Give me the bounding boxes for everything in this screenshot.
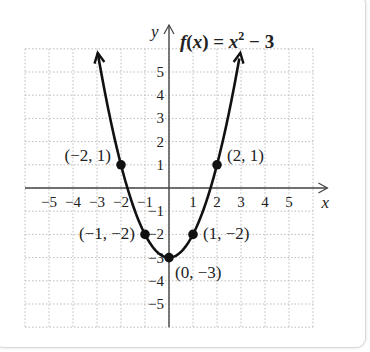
x-tick-label: −5 <box>41 194 57 210</box>
x-tick-label: 4 <box>261 194 269 210</box>
data-point <box>140 230 150 240</box>
y-tick-label: 5 <box>157 64 165 80</box>
x-tick-label: −3 <box>89 194 105 210</box>
point-label: (−1, −2) <box>79 224 135 243</box>
y-tick-label: 4 <box>157 87 165 103</box>
data-point <box>164 253 174 263</box>
x-tick-label: −2 <box>113 194 129 210</box>
data-point <box>188 230 198 240</box>
parabola-chart: xy−5−4−3−2−11234554321−1−2−3−4−5(−2, 1)(… <box>0 0 370 352</box>
y-tick-label: −4 <box>148 273 164 289</box>
y-tick-label: 3 <box>157 110 165 126</box>
chart-title: f(x) = x2 − 3 <box>180 29 274 53</box>
y-tick-label: 1 <box>157 157 165 173</box>
y-tick-label: −2 <box>148 226 164 242</box>
x-tick-label: 5 <box>285 194 293 210</box>
x-tick-label: 3 <box>237 194 245 210</box>
data-point <box>212 160 222 170</box>
x-tick-label: −4 <box>65 194 81 210</box>
x-tick-label: 1 <box>189 194 197 210</box>
y-tick-label: −5 <box>148 296 164 312</box>
point-label: (−2, 1) <box>65 146 111 165</box>
point-label: (1, −2) <box>203 224 249 243</box>
data-point <box>116 160 126 170</box>
y-axis-label: y <box>149 22 159 41</box>
y-tick-label: −1 <box>148 203 164 219</box>
y-tick-label: 2 <box>157 134 165 150</box>
x-tick-label: 2 <box>213 194 221 210</box>
point-label: (0, −3) <box>175 263 221 282</box>
x-axis-label: x <box>320 193 329 212</box>
point-label: (2, 1) <box>227 146 264 165</box>
